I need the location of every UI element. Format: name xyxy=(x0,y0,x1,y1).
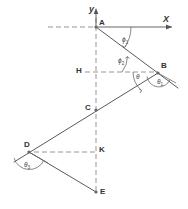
x-axis-arrowhead xyxy=(166,25,172,30)
angle-sub-theta3: 3 xyxy=(28,165,31,170)
segment-BD-extended xyxy=(14,73,158,162)
point-markers xyxy=(27,25,159,193)
angle-label-theta: θ xyxy=(136,74,140,83)
point-marker-C xyxy=(94,108,97,111)
angle-label-theta3: θ3 xyxy=(24,162,30,171)
angle-sub-phi2: 2 xyxy=(122,61,125,66)
angle-ray-theta3 xyxy=(29,152,48,163)
angle-label-theta1: θ1 xyxy=(157,79,163,88)
diagram-canvas xyxy=(0,0,188,209)
point-marker-E xyxy=(94,190,97,193)
point-label-K: K xyxy=(99,146,105,154)
x-axis-label: X xyxy=(163,15,169,24)
angle-label-phi2: ϕ2 xyxy=(118,58,124,67)
point-label-A: A xyxy=(99,19,105,27)
angle-arc-theta-tick xyxy=(139,89,141,93)
angle-sub-phi1: 1 xyxy=(126,40,129,45)
angle-label-phi1: ϕ1 xyxy=(122,37,128,46)
point-marker-D xyxy=(27,150,30,153)
point-marker-A xyxy=(94,25,97,28)
point-label-E: E xyxy=(100,188,105,196)
y-axis-arrowhead xyxy=(94,8,99,14)
point-label-D: D xyxy=(24,141,30,149)
geometric-diagram: y X A B H C D K E ϕ1 ϕ2 θ θ1 θ3 xyxy=(0,0,188,209)
y-axis-label: y xyxy=(89,5,94,14)
angle-sub-theta1: 1 xyxy=(161,82,164,87)
point-label-C: C xyxy=(85,104,91,112)
point-label-H: H xyxy=(76,67,82,75)
point-label-B: B xyxy=(161,62,167,70)
angle-glyph-theta: θ xyxy=(136,73,140,80)
point-marker-B xyxy=(156,71,159,74)
